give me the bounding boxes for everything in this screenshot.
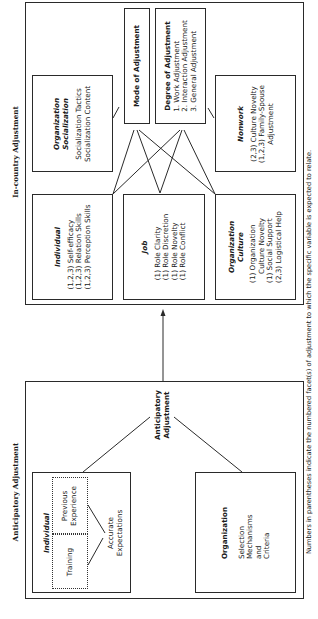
arrow-head bbox=[161, 309, 166, 316]
connector-lines bbox=[0, 0, 318, 619]
